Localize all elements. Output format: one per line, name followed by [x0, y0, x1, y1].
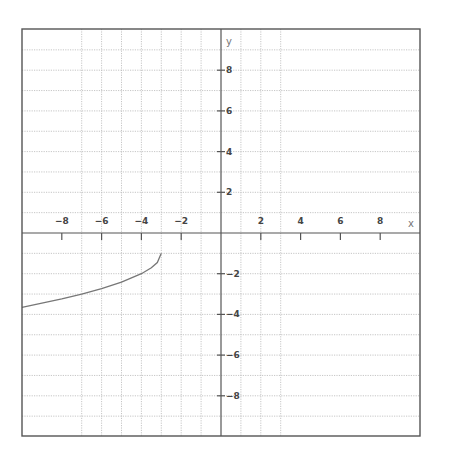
- x-tick-label: 6: [337, 216, 343, 226]
- x-tick-label: −4: [134, 216, 148, 226]
- y-tick-label: 6: [226, 106, 232, 116]
- x-tick-label: −2: [174, 216, 188, 226]
- y-axis-label: y: [226, 36, 232, 47]
- x-tick-label: 2: [258, 216, 264, 226]
- y-tick-label: −8: [226, 391, 240, 401]
- y-tick-label: 4: [226, 147, 232, 157]
- x-tick-label: 8: [377, 216, 383, 226]
- graph-plot: −8−6−4−224688642−2−4−6−8 x y: [0, 0, 451, 471]
- x-tick-label: −8: [55, 216, 69, 226]
- y-tick-label: −2: [226, 269, 240, 279]
- x-tick-label: 4: [297, 216, 303, 226]
- x-axis-label: x: [408, 218, 414, 229]
- y-tick-label: −4: [226, 309, 240, 319]
- series-layer: [22, 253, 161, 307]
- x-tick-label: −6: [95, 216, 109, 226]
- y-tick-label: −6: [226, 350, 240, 360]
- y-tick-label: 2: [226, 187, 232, 197]
- series-curve: [22, 253, 161, 307]
- y-tick-label: 8: [226, 65, 232, 75]
